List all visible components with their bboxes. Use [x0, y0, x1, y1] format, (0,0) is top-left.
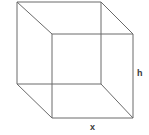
- edge-top-right-icon: [101, 2, 133, 34]
- back-face-group: [17, 2, 101, 84]
- cube-figure: h x: [0, 0, 149, 135]
- edge-top-left-icon: [17, 2, 52, 34]
- edge-bottom-right-icon: [101, 84, 133, 118]
- edge-bottom-left-icon: [17, 84, 52, 118]
- width-label: x: [90, 123, 95, 132]
- height-label: h: [137, 69, 143, 78]
- cube-wireframe-drawing: [0, 0, 149, 135]
- connecting-edges-group: [17, 2, 133, 118]
